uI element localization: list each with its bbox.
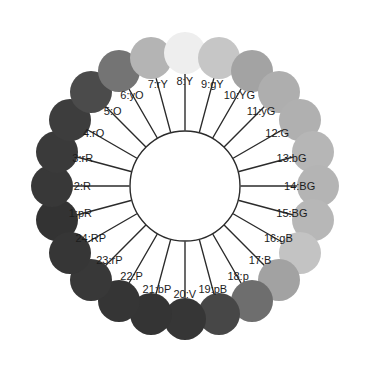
hue-label-23: 23:rP bbox=[96, 255, 122, 266]
hue-label-9: 9:gY bbox=[201, 79, 224, 90]
hue-label-1: 1:pR bbox=[69, 208, 92, 219]
hue-label-4: 4:rO bbox=[83, 128, 104, 139]
hue-label-19: 19:pB bbox=[198, 284, 227, 295]
hue-label-12: 12:G bbox=[265, 128, 289, 139]
color-wheel-diagram: 1:pR2:R3:rR4:rO5:O6:yO7:rY8:Y9:gY10:YG11… bbox=[0, 0, 368, 373]
hue-label-16: 16:gB bbox=[264, 233, 293, 244]
hue-label-7: 7:rY bbox=[148, 79, 168, 90]
hue-label-20: 20:V bbox=[174, 289, 197, 300]
hue-label-14: 14:BG bbox=[284, 181, 315, 192]
hue-label-22: 22:P bbox=[120, 271, 143, 282]
hue-label-18: 18:p bbox=[227, 271, 248, 282]
hue-label-24: 24:RP bbox=[76, 233, 107, 244]
hue-label-15: 15:BG bbox=[276, 208, 307, 219]
hue-label-21: 21:bP bbox=[143, 284, 172, 295]
hue-label-10: 10:YG bbox=[224, 90, 255, 101]
hue-label-13: 13:bG bbox=[277, 153, 307, 164]
hue-label-11: 11:yG bbox=[247, 106, 276, 117]
hue-label-5: 5:O bbox=[104, 106, 122, 117]
hue-label-17: 17:B bbox=[249, 255, 272, 266]
hue-label-3: 3:rR bbox=[72, 153, 93, 164]
hue-label-6: 6:yO bbox=[120, 90, 143, 101]
inner-circle bbox=[130, 131, 240, 241]
hue-label-2: 2:R bbox=[74, 181, 91, 192]
hue-label-8: 8:Y bbox=[177, 76, 194, 87]
